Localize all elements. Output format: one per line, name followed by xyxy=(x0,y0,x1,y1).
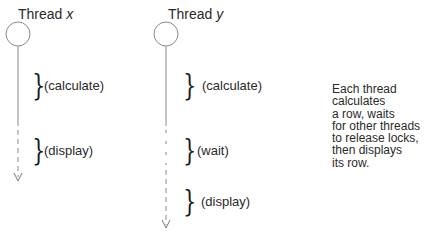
explanation-note: Each thread calculates a row, waits for … xyxy=(332,83,427,169)
thread-x-title-var: x xyxy=(66,6,73,22)
thread-x-title-prefix: Thread xyxy=(18,6,62,22)
thread-y-calculate-brace-icon: } xyxy=(183,70,196,100)
thread-y-title-prefix: Thread xyxy=(168,6,212,22)
thread-y-title-var: y xyxy=(216,6,223,22)
note-line: then displays xyxy=(332,144,427,156)
note-line: its row. xyxy=(332,157,427,169)
thread-x-lifeline xyxy=(6,22,30,181)
thread-y-wait-brace-icon: } xyxy=(183,135,196,165)
note-line: calculates xyxy=(332,95,427,107)
thread-x-calculate-label: (calculate) xyxy=(44,78,104,93)
thread-x-display-label: (display) xyxy=(44,143,93,158)
thread-y-start-circle xyxy=(154,22,178,46)
thread-y-calculate-label: (calculate) xyxy=(202,78,262,93)
thread-x-start-circle xyxy=(6,22,30,46)
thread-y-display-brace-icon: } xyxy=(183,186,196,216)
thread-y-lifeline xyxy=(154,22,178,228)
thread-y-display-label: (display) xyxy=(201,194,250,209)
thread-y-title: Thread y xyxy=(168,6,223,22)
thread-y-wait-label: (wait) xyxy=(197,143,229,158)
thread-x-title: Thread x xyxy=(18,6,73,22)
